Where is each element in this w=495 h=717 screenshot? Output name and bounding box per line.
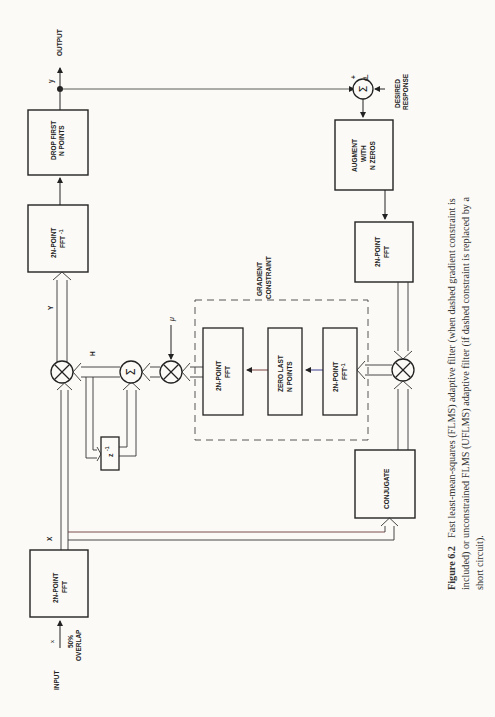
y-bus — [53, 272, 71, 364]
y-time-label: y — [47, 79, 55, 83]
conjugate-bus — [394, 381, 412, 450]
mu-multiplier — [160, 325, 182, 383]
svg-text:FFT: FFT — [59, 236, 66, 248]
mu-to-summer-bus — [142, 363, 160, 381]
X-freq-label: X — [46, 536, 53, 541]
error-bus — [394, 282, 412, 359]
svg-text:DROP FIRST: DROP FIRST — [50, 121, 57, 160]
constraint-ifft-block: 2N-POINT FFT -1 — [323, 328, 357, 415]
output-ifft-block: 2N-POINT FFT -1 — [28, 205, 88, 272]
svg-text:WITH: WITH — [360, 145, 367, 162]
svg-text:2N-POINT: 2N-POINT — [332, 362, 339, 392]
zero-last-block: ZERO LAST N POINTS — [268, 328, 302, 415]
svg-text:-1: -1 — [104, 446, 110, 451]
Y-freq-label: Y — [47, 305, 54, 310]
gradient-constraint-label-1: GRADIENT — [256, 262, 263, 296]
svg-text:2N-POINT: 2N-POINT — [215, 361, 222, 391]
caption-line-2: included) or unconstrained FLMS (UFLMS) … — [460, 197, 472, 590]
h-bus — [73, 363, 120, 381]
caption-line-3: short circuit). — [474, 535, 486, 590]
figure-number: Figure 6.2 — [446, 546, 457, 590]
svg-text:-1: -1 — [340, 363, 346, 368]
desired-label-2: RESPONSE — [402, 73, 409, 110]
plus-sign: + — [350, 75, 357, 79]
svg-text:FFT: FFT — [224, 366, 231, 378]
svg-text:-1: -1 — [58, 229, 64, 234]
weight-summer: Σ — [120, 361, 142, 383]
svg-text:AUGMENT: AUGMENT — [351, 139, 358, 172]
svg-text:N ZEROS: N ZEROS — [369, 140, 376, 170]
drop-first-block: DROP FIRST N POINTS — [28, 110, 88, 175]
output-label: OUTPUT — [56, 29, 63, 56]
svg-text:N POINTS: N POINTS — [58, 125, 65, 156]
error-fft-block: 2N-POINT FFT — [355, 222, 413, 282]
constraint-fft-block: 2N-POINT FFT — [203, 328, 243, 415]
svg-text:FFT: FFT — [341, 368, 348, 380]
svg-text:2N-POINT: 2N-POINT — [374, 237, 381, 267]
svg-text:Σ: Σ — [124, 368, 138, 376]
output-multiplier — [51, 361, 73, 383]
svg-text:Σ: Σ — [357, 85, 370, 92]
input-label: INPUT — [53, 670, 60, 690]
figure-caption: Figure 6.2 Fast least-mean-squares (FLMS… — [446, 197, 486, 590]
svg-text:2N-POINT: 2N-POINT — [52, 573, 59, 603]
flms-block-diagram: OUTPUT y DROP FIRST N POINTS 2N-POINT FF… — [0, 0, 495, 717]
svg-text:N POINTS: N POINTS — [286, 361, 293, 392]
gradient-constraint-label-2: CONSTRAINT — [265, 256, 272, 299]
constraint-to-mu-bus — [182, 363, 203, 381]
output-path — [57, 68, 354, 205]
augment-block: AUGMENT WITH N ZEROS — [335, 120, 393, 190]
conjugate-block: CONJUGATE — [355, 450, 415, 518]
svg-text:FFT: FFT — [383, 246, 390, 258]
caption-line-1: Fast least-mean-squares (FLMS) adaptive … — [446, 198, 458, 538]
mu-label: μ — [168, 317, 176, 322]
svg-text:Figure 6.2: Figure 6.2 — [446, 546, 457, 590]
delay-block: z -1 — [101, 437, 119, 470]
gradient-bus — [357, 361, 392, 379]
svg-text:FFT: FFT — [61, 581, 68, 593]
overlap-label-1: 50% — [67, 635, 74, 648]
input-x-label: x — [49, 640, 55, 643]
error-summer: Σ — [353, 79, 385, 117]
H-label: H — [89, 351, 96, 356]
input-fft-block: 2N-POINT FFT — [30, 550, 88, 617]
svg-text:ZERO LAST: ZERO LAST — [277, 355, 284, 392]
overlap-label-2: OVERLAP — [75, 629, 82, 661]
gradient-multiplier — [392, 359, 414, 381]
svg-text:CONJUGATE: CONJUGATE — [383, 468, 390, 509]
svg-text:2N-POINT: 2N-POINT — [50, 228, 57, 258]
desired-label-1: DESIRED — [394, 79, 401, 108]
svg-text:z: z — [107, 453, 114, 457]
